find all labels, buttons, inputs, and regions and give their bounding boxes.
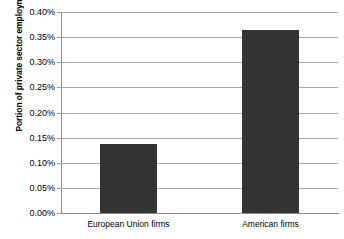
gridline bbox=[61, 213, 338, 214]
y-axis-tick-mark bbox=[57, 87, 61, 88]
y-axis-tick-mark bbox=[57, 138, 61, 139]
bar-1[interactable] bbox=[100, 144, 157, 213]
y-axis-tick-mark bbox=[57, 12, 61, 13]
y-axis-tick-mark bbox=[57, 37, 61, 38]
x-axis-category-label-1: European Union firms bbox=[59, 219, 199, 230]
gridline bbox=[61, 12, 338, 13]
plot-area bbox=[61, 12, 338, 213]
y-axis-tick-label: 0.25% bbox=[0, 82, 55, 92]
y-axis-tick-label: 0.35% bbox=[0, 32, 55, 42]
y-axis-tick-label: 0.30% bbox=[0, 57, 55, 67]
x-axis-category-label-2: American firms bbox=[201, 219, 341, 230]
y-axis-tick-label: 0.10% bbox=[0, 158, 55, 168]
y-axis-tick-mark bbox=[57, 163, 61, 164]
bar-2[interactable] bbox=[242, 30, 299, 213]
y-axis-tick-label: 0.20% bbox=[0, 108, 55, 118]
y-axis-tick-mark bbox=[57, 213, 61, 214]
y-axis-tick-label: 0.05% bbox=[0, 183, 55, 193]
y-axis-tick-label: 0.15% bbox=[0, 133, 55, 143]
y-axis-tick-label: 0.40% bbox=[0, 7, 55, 17]
y-axis-tick-mark bbox=[57, 113, 61, 114]
y-axis-tick-mark bbox=[57, 62, 61, 63]
y-axis-tick-labels: 0.00%0.05%0.10%0.15%0.20%0.25%0.30%0.35%… bbox=[0, 0, 55, 239]
y-axis-tick-mark bbox=[57, 188, 61, 189]
y-axis-tick-label: 0.00% bbox=[0, 208, 55, 218]
bar-chart: Portion of private sector employment 0.0… bbox=[0, 0, 344, 239]
